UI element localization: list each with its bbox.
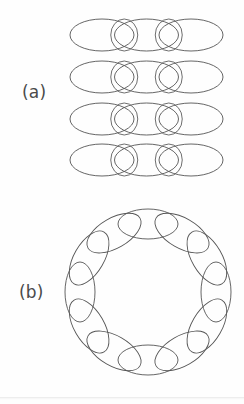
panel-b-ellipse-ring xyxy=(61,205,235,379)
figure-root: (a) (b) xyxy=(0,0,244,404)
ellipse-diagram xyxy=(0,0,244,404)
ellipse-chain-row xyxy=(70,103,223,135)
wide-ellipse xyxy=(159,144,223,176)
ring-ellipse xyxy=(179,293,235,360)
panel-label-b: (b) xyxy=(19,284,44,301)
ring-ellipse xyxy=(61,225,117,292)
ring-ellipse xyxy=(81,205,148,261)
panel-label-a: (a) xyxy=(22,84,46,101)
wide-ellipse xyxy=(159,61,223,93)
wide-ellipse xyxy=(159,103,223,135)
ring-ellipse xyxy=(149,205,216,261)
ellipse-chain-row xyxy=(70,61,223,93)
ring-ellipse xyxy=(61,293,117,360)
ellipse-chain-row xyxy=(70,19,223,51)
ellipse-chain-row xyxy=(70,144,223,176)
wide-ellipse xyxy=(159,19,223,51)
panel-a-ellipse-chains xyxy=(70,19,223,176)
ring-ellipse xyxy=(81,323,148,379)
ring-ellipse xyxy=(149,323,216,379)
ring-ellipse xyxy=(179,225,235,292)
